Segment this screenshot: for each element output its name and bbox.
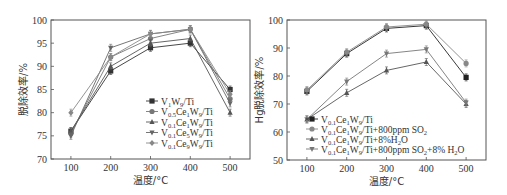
y-tick-label: 80	[273, 71, 283, 82]
legend-marker	[309, 116, 314, 121]
x-tick-label: 300	[379, 163, 394, 174]
legend-marker	[309, 126, 314, 131]
legend-label: V0.1Ce1W9/Ti+800ppm SO2+8% H2O	[321, 145, 465, 156]
y-tick-label: 50	[273, 155, 283, 166]
legend-label: V0.1Ce9W9/Ti	[161, 139, 213, 150]
data-point-marker	[188, 35, 193, 40]
legend-label: V0.1Ce1W9/Ti	[161, 118, 213, 129]
data-point-marker	[108, 63, 113, 68]
x-tick-label: 400	[183, 162, 198, 173]
y-tick-label: 75	[37, 130, 47, 141]
series-0	[304, 22, 468, 95]
figure: 707580859095100100200300400500温度/°C脱除效率/…	[0, 0, 507, 195]
x-tick-label: 100	[63, 162, 78, 173]
legend-label: V0.5Ce1W9/Ti	[161, 107, 213, 118]
data-point-marker	[424, 22, 429, 27]
data-point-marker	[304, 87, 309, 92]
legend-marker	[309, 147, 314, 152]
data-point-marker	[228, 110, 233, 115]
x-tick-label: 500	[459, 163, 474, 174]
legend-marker	[309, 136, 314, 141]
y-tick-label: 90	[37, 61, 47, 72]
x-tick-label: 300	[143, 162, 158, 173]
data-point-marker	[228, 101, 233, 106]
y-axis-label: Hg脱除效率/%	[253, 57, 265, 124]
chart-hg-removal-efficiency-conditions: 5060708090100100200300400500温度/°CHg脱除效率/…	[253, 15, 486, 188]
data-point-marker	[464, 75, 469, 80]
legend-marker	[149, 98, 154, 103]
data-point-marker	[68, 134, 73, 139]
legend: V0.1Ce1W9/TiV0.1Ce1W9/Ti+800ppm SO2V0.1C…	[306, 115, 465, 156]
legend-label: V1W9/Ti	[161, 97, 194, 108]
x-tick-label: 100	[299, 163, 314, 174]
data-point-marker	[384, 24, 389, 29]
y-tick-label: 100	[32, 15, 47, 26]
series-line	[307, 49, 466, 119]
x-tick-label: 200	[103, 162, 118, 173]
legend-marker	[149, 140, 154, 146]
data-point-marker	[344, 50, 349, 55]
y-tick-label: 60	[273, 127, 283, 138]
data-point-marker	[344, 90, 349, 95]
data-point-marker	[148, 31, 153, 37]
data-point-marker	[464, 61, 469, 66]
data-point-marker	[384, 52, 389, 57]
y-tick-label: 70	[273, 99, 283, 110]
legend-marker	[149, 119, 154, 124]
y-tick-label: 100	[268, 15, 283, 26]
y-tick-label: 95	[37, 38, 47, 49]
data-point-marker	[108, 46, 113, 51]
y-tick-label: 85	[37, 84, 47, 95]
y-tick-label: 70	[37, 154, 47, 165]
series-line	[307, 26, 466, 92]
chart-removal-efficiency-catalysts: 707580859095100100200300400500温度/°C脱除效率/…	[17, 15, 250, 187]
legend-label: V0.1Ce5W9/Ti	[161, 128, 213, 139]
y-tick-label: 90	[273, 43, 283, 54]
legend-marker	[149, 130, 154, 135]
x-axis-label: 温度/°C	[369, 175, 404, 187]
legend-marker	[149, 109, 154, 114]
series-3	[304, 46, 468, 123]
y-axis-label: 脱除效率/%	[17, 63, 29, 116]
legend: V1W9/TiV0.5Ce1W9/TiV0.1Ce1W9/TiV0.1Ce5W9…	[146, 97, 213, 150]
x-axis-label: 温度/°C	[133, 174, 168, 186]
data-point-marker	[304, 117, 309, 122]
x-tick-label: 400	[419, 163, 434, 174]
x-tick-label: 200	[339, 163, 354, 174]
y-tick-label: 80	[37, 107, 47, 118]
series-2	[304, 59, 468, 123]
data-point-marker	[424, 59, 429, 64]
x-tick-label: 500	[223, 162, 238, 173]
